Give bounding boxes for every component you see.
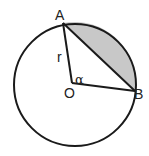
label-a: A [55,7,65,23]
circle-segment-diagram: A B O r α [0,0,149,156]
label-o: O [64,85,75,101]
label-b: B [134,86,143,102]
radius-oa [63,23,72,83]
label-alpha: α [75,72,84,87]
label-r: r [57,49,62,65]
